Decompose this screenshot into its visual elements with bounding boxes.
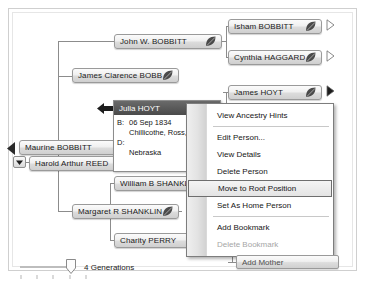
expand-arrow-hollow-icon[interactable]	[326, 19, 335, 31]
chevron-down-icon[interactable]	[13, 156, 26, 168]
context-menu-item[interactable]: Set As Home Person	[187, 197, 333, 214]
pedigree-chart-app: Isham BOBBITTCynthia HAGGARDJohn W. BOBB…	[0, 0, 367, 288]
slider-ticks	[20, 275, 88, 279]
person-node[interactable]: James HOYT	[228, 85, 322, 100]
birth-place-spacer	[117, 128, 129, 138]
person-node[interactable]: John W. BOBBITT	[114, 34, 222, 49]
person-node[interactable]: Isham BOBBITT	[228, 19, 322, 34]
person-node[interactable]: Cynthia HAGGARD	[228, 50, 322, 65]
selection-pointer-icon	[97, 101, 113, 114]
leaf-icon[interactable]	[162, 206, 174, 217]
context-menu-items: View Ancestry HintsEdit Person...View De…	[187, 107, 333, 253]
person-node-label: John W. BOBBITT	[115, 37, 205, 46]
person-node-label: Isham BOBBITT	[229, 22, 305, 31]
context-menu-item[interactable]: Add Bookmark	[187, 219, 333, 236]
person-node[interactable]: Maurine BOBBITT	[19, 140, 120, 155]
person-node[interactable]: Margaret R SHANKLIN	[72, 204, 179, 219]
leaf-icon[interactable]	[162, 70, 174, 81]
selected-person-name: Julia HOYT	[119, 104, 160, 113]
back-arrow-icon[interactable]	[7, 141, 16, 154]
death-label: D:	[117, 138, 129, 148]
person-node[interactable]: James Clarence BOBBITT	[72, 68, 179, 83]
person-node-label: Harold Arthur REED	[30, 159, 120, 168]
person-node-label: Cynthia HAGGARD	[229, 53, 305, 62]
context-menu-item[interactable]: Move to Root Position	[188, 180, 332, 197]
birth-label: B:	[117, 118, 129, 128]
add-mother-button[interactable]: Add Mother	[236, 255, 339, 269]
person-node-label: James HOYT	[229, 88, 305, 97]
context-menu-separator	[213, 126, 329, 127]
context-menu-item: Delete Bookmark	[187, 236, 333, 253]
slider-track[interactable]	[20, 266, 70, 268]
person-node-label: Maurine BOBBITT	[20, 143, 119, 152]
context-menu-item[interactable]: Edit Person...	[187, 129, 333, 146]
context-menu-item[interactable]: Delete Person	[187, 163, 333, 180]
add-mother-label: Add Mother	[242, 258, 283, 267]
person-node-label: James Clarence BOBBITT	[73, 71, 162, 80]
person-node[interactable]: Harold Arthur REED	[29, 156, 121, 171]
slider-thumb[interactable]	[66, 259, 76, 274]
leaf-icon[interactable]	[305, 52, 317, 63]
context-menu-separator	[213, 216, 329, 217]
expand-arrow-filled-icon[interactable]	[326, 85, 335, 97]
context-menu[interactable]: View Ancestry HintsEdit Person...View De…	[186, 103, 334, 257]
leaf-icon[interactable]	[305, 87, 317, 98]
context-menu-item[interactable]: View Ancestry Hints	[187, 107, 333, 124]
generations-label: 4 Generations	[84, 263, 134, 272]
leaf-icon[interactable]	[205, 36, 217, 47]
generations-slider[interactable]: 4 Generations	[20, 258, 170, 278]
leaf-icon[interactable]	[305, 21, 317, 32]
death-place-spacer	[117, 148, 129, 158]
context-menu-item[interactable]: View Details	[187, 146, 333, 163]
expand-arrow-hollow-icon[interactable]	[326, 50, 335, 62]
person-node-label: Margaret R SHANKLIN	[73, 207, 162, 216]
